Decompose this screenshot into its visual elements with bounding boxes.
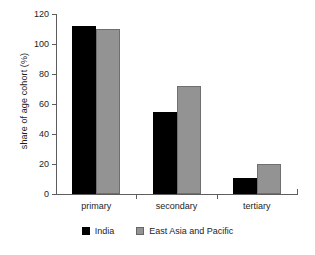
x-tick-label-secondary: secondary: [156, 201, 198, 211]
y-tick-label: 60: [39, 99, 49, 109]
x-tick-label-primary: primary: [81, 201, 111, 211]
y-tick-label: 0: [44, 189, 49, 199]
x-axis-end-tick: [297, 189, 298, 195]
y-tick-label: 40: [39, 129, 49, 139]
bar-secondary-east-asia-and-pacific: [177, 86, 201, 194]
legend-label: East Asia and Pacific: [149, 226, 233, 236]
y-tick-label: 20: [39, 159, 49, 169]
bar-chart: share of age cohort (%) 020406080100120 …: [0, 0, 315, 255]
y-tick: [52, 104, 56, 105]
legend-swatch-icon: [136, 227, 144, 235]
y-tick: [52, 74, 56, 75]
bar-primary-east-asia-and-pacific: [96, 29, 120, 194]
x-axis-line: [56, 194, 298, 195]
legend-item-india[interactable]: India: [82, 226, 115, 236]
y-tick: [52, 164, 56, 165]
plot-area: 020406080100120 primarysecondarytertiary: [56, 14, 297, 194]
y-tick-label: 80: [39, 69, 49, 79]
y-tick: [52, 44, 56, 45]
y-axis-title: share of age cohort (%): [19, 11, 29, 191]
legend-item-east-asia-and-pacific[interactable]: East Asia and Pacific: [136, 226, 233, 236]
y-tick-label: 100: [34, 39, 49, 49]
x-tick: [136, 194, 137, 199]
bar-tertiary-india: [233, 178, 257, 195]
y-tick-label: 120: [34, 9, 49, 19]
legend-swatch-icon: [82, 227, 90, 235]
y-tick: [52, 14, 56, 15]
x-tick: [217, 194, 218, 199]
bar-tertiary-east-asia-and-pacific: [257, 164, 281, 194]
x-tick-label-tertiary: tertiary: [243, 201, 271, 211]
legend-label: India: [95, 226, 115, 236]
chart-legend: IndiaEast Asia and Pacific: [0, 226, 315, 236]
bar-secondary-india: [153, 112, 177, 195]
y-tick: [52, 194, 56, 195]
bar-primary-india: [72, 26, 96, 194]
y-tick: [52, 134, 56, 135]
y-axis-line: [56, 14, 57, 195]
